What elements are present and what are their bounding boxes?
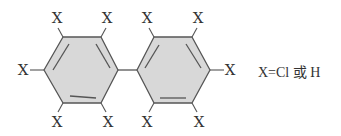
substituent-label: X xyxy=(142,113,153,131)
substituent-label: X xyxy=(194,113,205,131)
biphenyl-diagram: XXXXXXXXXX X=Cl 或 H xyxy=(0,0,341,136)
substituent-bond xyxy=(101,103,106,112)
substituent-bond xyxy=(58,28,63,37)
substituent-bond xyxy=(149,103,154,112)
substituent-bond xyxy=(101,28,106,37)
substituent-bond xyxy=(192,28,197,37)
substituent-bond xyxy=(149,28,154,37)
substituent-bond xyxy=(192,103,197,112)
substituent-label: X xyxy=(193,9,204,27)
substituent-bond xyxy=(58,103,63,112)
substituent-label: X xyxy=(52,9,63,27)
substituent-label: X xyxy=(142,9,153,27)
substituent-label: X xyxy=(18,61,29,79)
substituent-label: X xyxy=(102,9,113,27)
right-ring xyxy=(137,37,210,103)
substituent-label: X xyxy=(52,113,63,131)
legend-text: X=Cl 或 H xyxy=(258,61,320,81)
left-ring xyxy=(44,37,118,103)
substituent-label: X xyxy=(225,61,236,79)
substituent-label: X xyxy=(103,113,114,131)
